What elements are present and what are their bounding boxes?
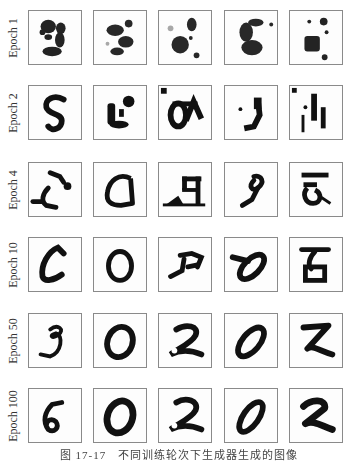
- figure-caption: 图 17-17 不同训练轮次下生成器生成的图像: [0, 446, 358, 462]
- sample-image: [158, 237, 212, 292]
- row-epoch-2: Epoch 2: [0, 85, 358, 141]
- sample-image: [224, 162, 278, 217]
- row-label: Epoch 2: [4, 85, 22, 141]
- row-label: Epoch 1: [4, 10, 22, 66]
- sample-image: [224, 388, 278, 443]
- sample-image: [93, 313, 147, 368]
- sample-image: [224, 237, 278, 292]
- sample-image: [289, 10, 343, 65]
- sample-image: [28, 313, 82, 368]
- row-label: Epoch 50: [4, 313, 22, 369]
- sample-image: [158, 10, 212, 65]
- row-epoch-100: Epoch 100: [0, 388, 358, 444]
- sample-image: [289, 162, 343, 217]
- sample-image: [93, 85, 147, 140]
- sample-image: [289, 237, 343, 292]
- sample-image: [289, 313, 343, 368]
- sample-image: [93, 388, 147, 443]
- row-label: Epoch 100: [4, 388, 22, 444]
- sample-image: [28, 237, 82, 292]
- sample-image: [93, 162, 147, 217]
- sample-image: [224, 85, 278, 140]
- sample-image: [289, 85, 343, 140]
- row-epoch-4: Epoch 4: [0, 162, 358, 218]
- sample-image: [28, 162, 82, 217]
- row-label: Epoch 4: [4, 162, 22, 218]
- sample-image: [158, 313, 212, 368]
- sample-image: [28, 10, 82, 65]
- sample-image: [224, 10, 278, 65]
- sample-image: [224, 313, 278, 368]
- sample-image: [28, 85, 82, 140]
- sample-image: [158, 85, 212, 140]
- sample-image: [28, 388, 82, 443]
- row-epoch-50: Epoch 50: [0, 313, 358, 369]
- sample-image: [158, 388, 212, 443]
- row-label: Epoch 10: [4, 237, 22, 293]
- sample-image: [93, 10, 147, 65]
- sample-image: [93, 237, 147, 292]
- row-epoch-1: Epoch 1: [0, 10, 358, 66]
- sample-image: [158, 162, 212, 217]
- sample-image: [289, 388, 343, 443]
- row-epoch-10: Epoch 10: [0, 237, 358, 293]
